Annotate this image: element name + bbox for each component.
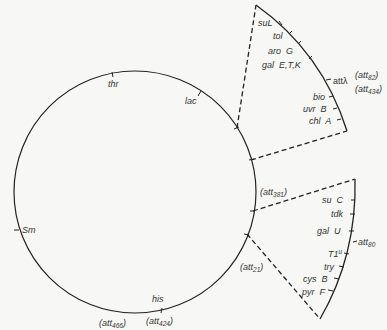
marker-try: try (324, 262, 334, 272)
marker-su-c: su C (322, 195, 344, 205)
upper-dashed-left (237, 5, 256, 128)
marker-his: his (152, 294, 164, 304)
marker-sm: Sm (22, 225, 36, 235)
marker-lac: lac (185, 96, 197, 106)
label-att434: (att434) (355, 84, 382, 95)
label-att466: (att466) (99, 318, 126, 329)
label-att80: att80 (358, 237, 376, 248)
marker-gal-u: gal U (317, 226, 341, 236)
label-att424: (att424) (146, 316, 173, 327)
label-att82: (att82) (355, 70, 378, 81)
map-svg: suL tol aro G gal E,T,K attλ (att82) (at… (0, 0, 387, 330)
tick-lac (198, 91, 201, 96)
marker-bio: bio (313, 92, 325, 102)
marker-pyr-f: pyr F (301, 287, 326, 297)
tick-his (161, 308, 162, 313)
marker-tdk: tdk (331, 209, 344, 219)
label-att21: (att21) (240, 262, 263, 273)
upper-dashed-bottom (251, 131, 347, 160)
genetic-map-diagram: suL tol aro G gal E,T,K attλ (att82) (at… (0, 0, 387, 330)
marker-thr: thr (108, 79, 120, 89)
marker-suL: suL (258, 18, 273, 28)
label-att381: (att381) (260, 187, 287, 198)
marker-chl-a: chl A (309, 116, 331, 126)
marker-cys-b: cys B (303, 274, 328, 284)
marker-uvr-b: uvr B (303, 104, 327, 114)
marker-gal-etk: gal E,T,K (262, 60, 302, 70)
marker-tol: tol (273, 31, 284, 41)
marker-t1u: T1u (328, 248, 343, 259)
label-att-lambda: attλ (333, 76, 348, 86)
marker-aro-g: aro G (268, 46, 293, 56)
chromosome-circle (14, 71, 256, 313)
